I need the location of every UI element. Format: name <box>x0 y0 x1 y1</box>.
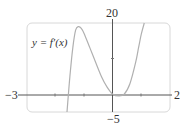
chart-canvas <box>0 0 191 132</box>
y-max-label: 20 <box>106 7 118 19</box>
x-max-label: 2 <box>174 89 180 101</box>
x-min-label: −3 <box>5 89 18 101</box>
derivative-curve <box>67 23 144 112</box>
function-label: y = f′(x) <box>32 37 67 48</box>
y-min-label: −5 <box>107 113 120 125</box>
